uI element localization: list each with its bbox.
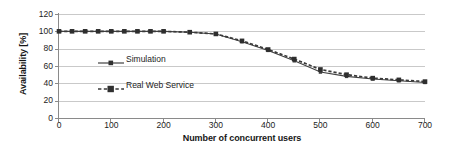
x-axis-line [58, 118, 425, 119]
x-tick-label: 300 [209, 120, 223, 130]
data-point-marker [423, 79, 428, 84]
x-tick-label: 500 [313, 120, 327, 130]
data-point-marker [122, 29, 127, 34]
y-tick-label: 0 [48, 114, 53, 123]
data-point-marker [318, 67, 323, 72]
data-point-marker [83, 29, 88, 34]
x-tick-label: 600 [366, 120, 380, 130]
legend-key-dashed-line-icon [98, 80, 124, 90]
data-point-marker [148, 29, 153, 34]
x-tick-label: 400 [261, 120, 275, 130]
y-tick-label: 100 [39, 27, 53, 36]
data-point-marker [266, 47, 271, 52]
data-point-marker [187, 30, 192, 35]
legend-item-real-web-service[interactable]: Real Web Service [98, 78, 228, 92]
chart-legend: Simulation Real Web Service [98, 52, 228, 104]
data-point-marker [135, 29, 140, 34]
y-tick-label: 40 [44, 79, 53, 88]
y-tick-label: 120 [39, 10, 53, 19]
data-point-marker [109, 29, 114, 34]
data-point-marker [344, 72, 349, 77]
x-tick-label: 100 [104, 120, 118, 130]
data-point-marker [214, 32, 219, 37]
legend-key-solid-line-icon [98, 54, 124, 64]
x-axis-title: Number of concurrent users [59, 133, 425, 143]
y-tick-label: 60 [44, 62, 53, 71]
legend-item-simulation[interactable]: Simulation [98, 52, 228, 66]
legend-label: Simulation [126, 54, 166, 64]
y-axis-tick-labels: 120 100 80 60 40 20 0 [26, 10, 56, 118]
data-point-marker [57, 29, 62, 34]
data-point-marker [161, 29, 166, 34]
y-tick-label: 20 [44, 96, 53, 105]
legend-label: Real Web Service [126, 80, 194, 90]
data-point-marker [96, 29, 101, 34]
data-point-marker [240, 39, 245, 44]
y-tick-label: 80 [44, 44, 53, 53]
x-tick-label: 0 [57, 120, 62, 130]
data-point-marker [397, 78, 402, 83]
data-point-marker [292, 57, 297, 62]
data-point-marker [370, 76, 375, 81]
x-axis-tick-labels: 0 100 200 300 400 500 600 700 [59, 120, 425, 134]
data-point-marker [70, 29, 75, 34]
x-tick-label: 700 [418, 120, 432, 130]
availability-line-chart: Availability [%] 120 100 80 60 40 20 0 [0, 0, 453, 154]
x-tick-label: 200 [157, 120, 171, 130]
